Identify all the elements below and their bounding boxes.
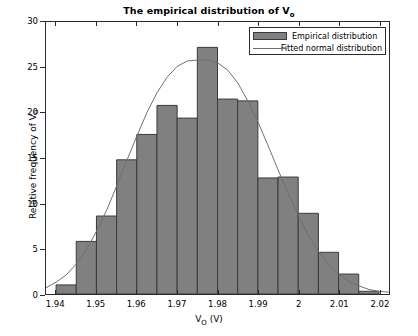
x-tick-mark-top [177, 21, 178, 26]
x-tick-mark-top [299, 21, 300, 26]
x-tick-mark [55, 290, 56, 295]
y-tick-label: 10 [10, 199, 38, 209]
x-tick-label: 1.96 [116, 299, 156, 309]
legend-label-empirical: Empirical distribution [292, 32, 377, 41]
x-tick-mark-top [218, 21, 219, 26]
histogram-bar [359, 291, 379, 294]
x-tick-mark [258, 290, 259, 295]
histogram-bar [137, 134, 157, 294]
y-tick-mark [40, 158, 45, 159]
plot-area [45, 21, 390, 295]
x-tick-label: 1.95 [76, 299, 116, 309]
y-tick-mark [40, 112, 45, 113]
histogram-bar [96, 216, 116, 294]
x-tick-mark-top [380, 21, 381, 26]
x-tick-label: 2.02 [360, 299, 400, 309]
histogram-bar [56, 285, 76, 294]
y-tick-label: 5 [10, 244, 38, 254]
x-axis-label-unit: (V) [207, 314, 223, 324]
histogram-bar [318, 252, 338, 294]
x-tick-mark [380, 290, 381, 295]
y-tick-label: 30 [10, 16, 38, 26]
x-tick-label: 1.99 [238, 299, 278, 309]
x-tick-mark-top [339, 21, 340, 26]
x-tick-label: 2.01 [319, 299, 359, 309]
y-tick-mark [40, 21, 45, 22]
legend-bar-swatch-icon [253, 32, 287, 40]
x-tick-mark-top [55, 21, 56, 26]
y-tick-label: 20 [10, 107, 38, 117]
y-tick-label: 25 [10, 62, 38, 72]
legend-line-swatch-icon [253, 44, 276, 52]
chart-root: The empirical distribution of Vo Relativ… [0, 0, 418, 336]
histogram-bar [298, 213, 318, 294]
x-tick-mark-top [96, 21, 97, 26]
histogram-bar [218, 99, 238, 294]
histogram-bar [278, 177, 298, 294]
y-tick-mark [40, 295, 45, 296]
x-tick-mark-top [136, 21, 137, 26]
legend-label-fitted: Fitted normal distribution [281, 44, 382, 53]
x-tick-label: 2 [279, 299, 319, 309]
x-tick-mark [218, 290, 219, 295]
y-tick-mark [40, 249, 45, 250]
x-tick-mark [177, 290, 178, 295]
plot-svg [46, 22, 389, 294]
y-tick-mark [40, 67, 45, 68]
y-tick-label: 0 [10, 290, 38, 300]
histogram-bar [197, 47, 217, 294]
chart-title: The empirical distribution of Vo [0, 5, 418, 19]
x-tick-mark [339, 290, 340, 295]
legend-entry-fitted: Fitted normal distribution [253, 42, 382, 54]
histogram-bar [177, 118, 197, 294]
x-tick-mark [96, 290, 97, 295]
x-axis-label: VO (V) [0, 314, 418, 327]
y-tick-mark [40, 204, 45, 205]
legend-entry-empirical: Empirical distribution [253, 30, 382, 42]
x-tick-label: 1.97 [157, 299, 197, 309]
chart-legend: Empirical distribution Fitted normal dis… [249, 27, 386, 55]
chart-title-text: The empirical distribution of V [123, 5, 290, 16]
chart-title-subscript: o [290, 11, 295, 19]
x-tick-mark-top [258, 21, 259, 26]
histogram-bars [56, 47, 379, 294]
x-tick-mark [299, 290, 300, 295]
x-tick-label: 1.94 [35, 299, 75, 309]
histogram-bar [157, 105, 177, 294]
x-tick-label: 1.98 [198, 299, 238, 309]
histogram-bar [117, 160, 137, 294]
histogram-bar [258, 178, 278, 294]
y-tick-label: 15 [10, 153, 38, 163]
x-tick-mark [136, 290, 137, 295]
histogram-bar [238, 101, 258, 294]
